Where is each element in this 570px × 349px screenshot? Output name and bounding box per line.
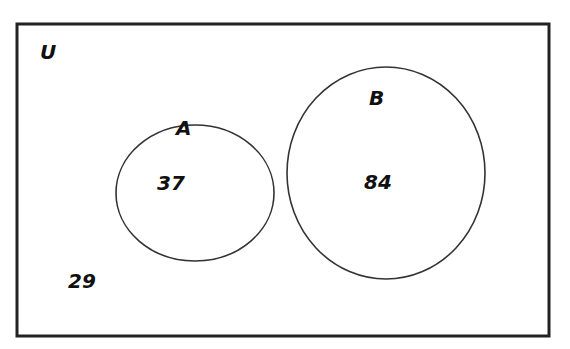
venn-canvas [0, 0, 570, 349]
set-a-label: A [176, 118, 191, 138]
set-a-value: 37 [157, 173, 185, 193]
set-b-label: B [369, 88, 384, 108]
universe-label: U [40, 42, 56, 62]
universe-rect [17, 24, 549, 336]
outside-value: 29 [68, 271, 96, 291]
set-b-value: 84 [364, 172, 392, 192]
set-a-circle [116, 125, 274, 261]
